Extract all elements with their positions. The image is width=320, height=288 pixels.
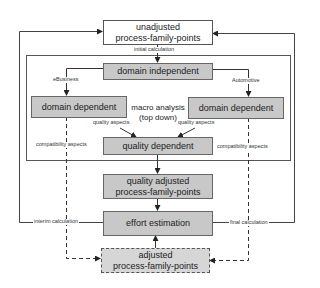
domain-dependent-left-label: domain dependent	[42, 102, 117, 112]
adjusted-pfp-node: adjusted process-family-points	[101, 248, 210, 273]
domain-dependent-right-label: domain dependent	[199, 103, 274, 113]
compatibility-aspects-left-label: compatibility aspects	[35, 142, 88, 148]
initial-calculation-label: initial calculation	[133, 47, 175, 53]
quality-dependent-node: quality dependent	[103, 137, 213, 155]
adjusted-line2: process-family-points	[113, 261, 198, 271]
quality-aspects-left-label: quality aspects	[92, 120, 130, 126]
quality-dependent-label: quality dependent	[122, 141, 193, 151]
ebusiness-label: eBusiness	[52, 77, 79, 83]
quality-aspects-right-label: quality aspects	[177, 120, 215, 126]
quality-adjusted-line2: process-family-points	[115, 187, 200, 197]
effort-estimation-node: effort estimation	[103, 211, 213, 236]
macro-analysis-line1: macro analysis	[127, 103, 189, 113]
unadjusted-line1: unadjusted	[136, 22, 180, 32]
interim-calculation-label: interim calculation	[33, 219, 79, 225]
automotive-label: Automotive	[231, 78, 261, 84]
adjusted-line1: adjusted	[138, 250, 172, 260]
domain-independent-node: domain independent	[103, 63, 213, 80]
unadjusted-process-family-points-node: unadjusted process-family-points	[103, 20, 213, 45]
quality-adjusted-pfp-node: quality adjusted process-family-points	[103, 174, 213, 199]
final-calculation-label: final calculation	[229, 220, 269, 226]
quality-adjusted-line1: quality adjusted	[127, 176, 190, 186]
compatibility-aspects-right-label: compatibility aspects	[216, 144, 269, 150]
domain-dependent-right-node: domain dependent	[188, 97, 284, 119]
unadjusted-line2: process-family-points	[115, 33, 200, 43]
domain-independent-label: domain independent	[117, 66, 199, 76]
effort-estimation-label: effort estimation	[126, 218, 190, 228]
domain-dependent-left-node: domain dependent	[31, 96, 127, 118]
